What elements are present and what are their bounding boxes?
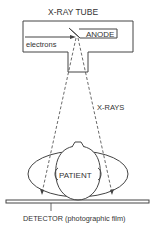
electrons-label: electrons xyxy=(26,40,57,49)
patient-nose xyxy=(72,142,84,147)
xray-diagram: X-RAY TUBE ANODE electrons X-RAYS PATIEN… xyxy=(0,0,158,229)
electron-arrowhead xyxy=(70,35,76,39)
detector-plate xyxy=(6,200,149,203)
detector-label: DETECTOR (photographic film) xyxy=(23,214,125,223)
anode-label: ANODE xyxy=(86,30,114,39)
xrays-label: X-RAYS xyxy=(97,103,124,112)
patient-label: PATIENT xyxy=(59,171,92,180)
tube-label: X-RAY TUBE xyxy=(48,7,98,17)
